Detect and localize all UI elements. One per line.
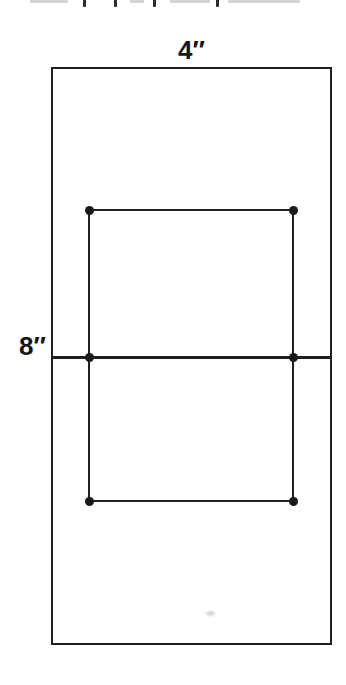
- inner-rectangle: [88, 209, 294, 502]
- vertex-dot: [289, 353, 298, 362]
- vertex-dot: [289, 206, 298, 215]
- vertex-dot: [85, 497, 94, 506]
- scan-artifact: [206, 611, 215, 616]
- text-smudge: [30, 0, 68, 3]
- vertex-dot: [85, 206, 94, 215]
- height-dimension-label: 8″: [4, 334, 46, 358]
- text-descender-mark: [83, 0, 86, 7]
- worksheet-page: 4″ 8″: [0, 0, 346, 685]
- text-smudge: [170, 0, 210, 3]
- text-descender-mark: [216, 0, 219, 7]
- vertex-dot: [85, 353, 94, 362]
- vertex-dot: [289, 497, 298, 506]
- width-dimension-label: 4″: [141, 38, 242, 62]
- text-descender-mark: [114, 0, 117, 7]
- text-smudge: [130, 0, 144, 3]
- text-descender-mark: [153, 0, 156, 7]
- text-smudge: [228, 0, 300, 3]
